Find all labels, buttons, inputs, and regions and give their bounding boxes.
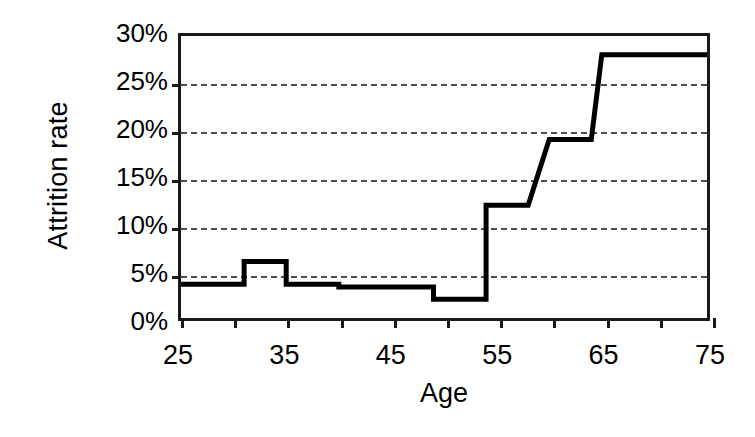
x-axis-title: Age — [178, 378, 710, 409]
x-tick-label-75: 75 — [695, 340, 725, 371]
x-tick-45 — [394, 318, 397, 328]
x-tick-50 — [447, 318, 450, 328]
x-tick-65 — [607, 318, 610, 328]
x-tick-35 — [287, 318, 290, 328]
x-tick-60 — [553, 318, 556, 328]
y-axis-tick-labels: 30%25%20%15%10%5%0% — [64, 33, 168, 321]
x-axis-tick-labels: 253545556575 — [178, 340, 710, 380]
y-tick-15 — [172, 180, 181, 183]
x-tick-40 — [341, 318, 344, 328]
y-tick-label-5: 5% — [130, 258, 168, 289]
y-tick-label-25: 25% — [116, 66, 168, 97]
plot-area — [178, 33, 710, 321]
x-tick-label-55: 55 — [482, 340, 512, 371]
attrition-rate-line — [181, 36, 707, 318]
x-tick-label-65: 65 — [589, 340, 619, 371]
y-tick-label-30: 30% — [116, 18, 168, 49]
x-tick-55 — [500, 318, 503, 328]
plot-inner — [181, 36, 707, 318]
attrition-rate-polyline — [181, 55, 707, 299]
y-tick-label-20: 20% — [116, 114, 168, 145]
y-tick-label-0: 0% — [130, 306, 168, 337]
x-tick-25 — [181, 318, 184, 328]
x-tick-label-35: 35 — [269, 340, 299, 371]
y-tick-5 — [172, 276, 181, 279]
x-tick-70 — [660, 318, 663, 328]
x-tick-75 — [713, 318, 716, 328]
y-tick-label-10: 10% — [116, 210, 168, 241]
x-tick-30 — [234, 318, 237, 328]
x-tick-label-45: 45 — [376, 340, 406, 371]
y-tick-25 — [172, 84, 181, 87]
y-tick-10 — [172, 228, 181, 231]
y-tick-20 — [172, 132, 181, 135]
x-tick-label-25: 25 — [163, 340, 193, 371]
y-tick-label-15: 15% — [116, 162, 168, 193]
chart-figure: Attrition rate 30%25%20%15%10%5%0% 25354… — [0, 0, 755, 437]
